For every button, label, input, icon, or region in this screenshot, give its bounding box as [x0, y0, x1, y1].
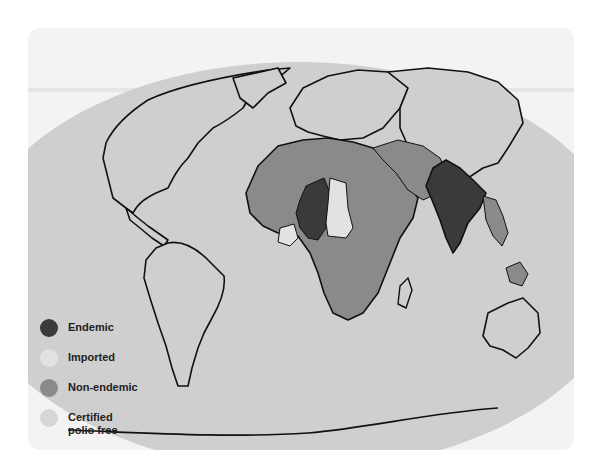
certified-swatch-icon [40, 409, 58, 427]
endemic-swatch-icon [40, 319, 58, 337]
legend-label-imported: Imported [68, 348, 115, 364]
non-endemic-swatch-icon [40, 379, 58, 397]
legend-label-endemic: Endemic [68, 318, 114, 334]
legend-item-certified-polio-free: Certified polio free [40, 408, 138, 444]
legend-label-certified: Certified polio free [68, 408, 118, 437]
legend-label-non-endemic: Non-endemic [68, 378, 138, 394]
imported-swatch-icon [40, 349, 58, 367]
legend-label-certified-line1: Certified [68, 411, 113, 423]
legend-item-imported: Imported [40, 348, 138, 370]
legend-item-non-endemic: Non-endemic [40, 378, 138, 400]
legend-label-certified-line2: polio free [68, 424, 118, 436]
map-card: Endemic Imported Non-endemic Certified p… [28, 28, 574, 450]
map-legend: Endemic Imported Non-endemic Certified p… [40, 318, 138, 450]
legend-item-endemic: Endemic [40, 318, 138, 340]
